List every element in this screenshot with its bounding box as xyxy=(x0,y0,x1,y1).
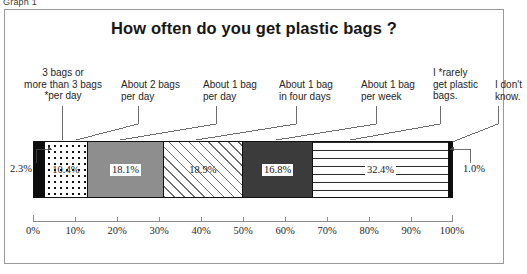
category-label-6: I don't know. xyxy=(495,79,527,102)
x-axis-tick xyxy=(159,217,160,222)
chart-title: How often do you get plastic bags ? xyxy=(5,19,503,38)
x-tick-label-4: 40% xyxy=(191,225,210,236)
category-label-4: About 1 bag per week xyxy=(361,79,431,102)
x-axis-tick xyxy=(327,217,328,222)
category-label-3: About 1 bag in four days xyxy=(279,79,359,102)
bar-segment-value-2: 18.1% xyxy=(110,164,141,176)
bar-segment-value-5: 32.4% xyxy=(365,164,396,176)
x-tick-label-6: 60% xyxy=(275,225,294,236)
bar-segment-0[interactable] xyxy=(34,142,44,197)
chart-frame: How often do you get plastic bags ? 3 ba… xyxy=(4,9,504,264)
x-axis-tick xyxy=(452,215,453,222)
x-axis-tick xyxy=(117,217,118,222)
bar-segment-6[interactable] xyxy=(448,142,452,197)
x-axis-tick xyxy=(75,217,76,222)
bar-segment-4[interactable]: 16.8% xyxy=(242,142,312,197)
bar-segment-value-6: 1.0% xyxy=(463,163,485,174)
x-axis-tick xyxy=(243,217,244,222)
x-tick-label-3: 30% xyxy=(149,225,168,236)
bar-segment-value-4: 16.8% xyxy=(262,164,293,176)
plot-area: How often do you get plastic bags ? 3 ba… xyxy=(5,10,503,263)
x-tick-label-1: 10% xyxy=(65,225,84,236)
x-axis-tick xyxy=(33,215,34,222)
x-tick-label-9: 90% xyxy=(401,225,420,236)
category-label-5: I *rarely get plastic bags. xyxy=(433,67,493,102)
x-tick-label-0: 0% xyxy=(26,225,40,236)
x-tick-label-5: 50% xyxy=(233,225,252,236)
figure-caption: Graph 1 xyxy=(3,0,37,7)
x-tick-label-2: 20% xyxy=(107,225,126,236)
bar-segment-5[interactable]: 32.4% xyxy=(312,142,448,197)
bar-segment-3[interactable]: 18.9% xyxy=(163,142,242,197)
x-tick-label-10: 100% xyxy=(440,225,465,236)
x-axis-tick xyxy=(369,217,370,222)
category-label-0: 3 bags or more than 3 bags *per day xyxy=(11,67,115,102)
bar-segment-value-0: 2.3% xyxy=(10,163,32,174)
x-axis-tick xyxy=(201,217,202,222)
category-label-1: About 2 bags per day xyxy=(121,79,199,102)
x-tick-label-7: 70% xyxy=(317,225,336,236)
bar-segment-1[interactable]: 10.4% xyxy=(44,142,88,197)
category-label-2: About 1 bag per day xyxy=(203,79,275,102)
bar-segment-value-1: 10.4% xyxy=(50,164,81,176)
x-tick-label-8: 80% xyxy=(359,225,378,236)
bar-segment-2[interactable]: 18.1% xyxy=(87,142,163,197)
stacked-bar: 10.4% 18.1% 18.9% 16.8% 32.4% xyxy=(33,141,453,198)
x-axis-tick xyxy=(411,217,412,222)
bar-segment-value-3: 18.9% xyxy=(187,164,218,176)
x-axis-tick xyxy=(285,217,286,222)
